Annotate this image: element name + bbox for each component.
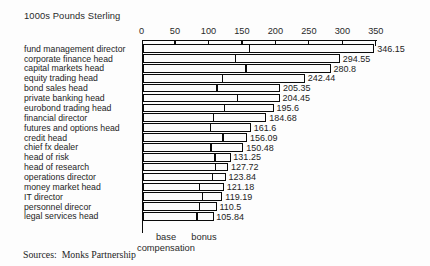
category-label: head of risk xyxy=(24,152,138,162)
legend-label-bonus: bonus xyxy=(184,232,224,243)
bar-divider xyxy=(215,164,216,171)
bar-value-label: 346.15 xyxy=(377,44,405,54)
category-label: IT director xyxy=(24,192,138,202)
category-label: futures and options head xyxy=(24,123,138,133)
bar-divider xyxy=(235,55,236,62)
category-label: chief fx dealer xyxy=(24,142,138,152)
chart-canvas: 1000s Pounds Sterling 050100150200250300… xyxy=(0,0,430,266)
bar xyxy=(143,94,280,103)
bar xyxy=(143,202,217,211)
x-tick-label: 250 xyxy=(301,26,316,36)
bar-divider xyxy=(216,85,217,92)
bar-value-label: 205.35 xyxy=(283,83,311,93)
x-tick-label: 50 xyxy=(170,26,180,36)
bar-value-label: 110.5 xyxy=(219,202,241,212)
bar-value-label: 280.8 xyxy=(333,64,356,74)
category-label: bond sales head xyxy=(24,83,138,93)
bar xyxy=(143,183,224,192)
bar-value-label: 121.18 xyxy=(227,182,255,192)
bar-divider xyxy=(199,184,200,191)
bar-value-label: 161.6 xyxy=(254,123,277,133)
bar xyxy=(143,192,223,201)
x-tick-label: 300 xyxy=(335,26,350,36)
category-label: financial director xyxy=(24,113,138,123)
x-tick-label: 100 xyxy=(201,26,216,36)
bar-divider xyxy=(196,213,197,220)
bar xyxy=(143,113,267,122)
category-label: operations director xyxy=(24,172,138,182)
bar xyxy=(143,54,340,63)
category-label: private banking head xyxy=(24,93,138,103)
bar xyxy=(143,212,214,221)
x-tick-label: 350 xyxy=(368,26,383,36)
bar-divider xyxy=(224,105,225,112)
sources-caption: Sources: Monks Partnership xyxy=(23,249,136,260)
bar xyxy=(143,104,274,113)
bar xyxy=(143,143,244,152)
bar-divider xyxy=(249,45,250,52)
bar xyxy=(143,173,226,182)
bar xyxy=(143,44,375,53)
bar xyxy=(143,64,331,73)
bar-value-label: 105.84 xyxy=(216,212,244,222)
bar-divider xyxy=(214,154,215,161)
bar-divider xyxy=(222,134,223,141)
bar-value-label: 123.84 xyxy=(228,172,256,182)
bar xyxy=(143,133,248,142)
category-label: equity trading head xyxy=(24,73,138,83)
category-label: head of research xyxy=(24,162,138,172)
bar-value-label: 131.25 xyxy=(233,152,261,162)
bar-value-label: 242.44 xyxy=(308,73,336,83)
bar xyxy=(143,153,231,162)
bar xyxy=(143,74,305,83)
bar-divider xyxy=(212,174,213,181)
bar xyxy=(143,84,280,93)
bar-value-label: 150.48 xyxy=(246,143,274,153)
x-tick-label: 150 xyxy=(234,26,249,36)
bar xyxy=(143,123,251,132)
category-label: corporate finance head xyxy=(24,54,138,64)
chart-title: 1000s Pounds Sterling xyxy=(24,10,120,21)
category-label: capital markets head xyxy=(24,63,138,73)
bar-divider xyxy=(245,65,246,72)
x-tick-label: 0 xyxy=(139,26,144,36)
category-label: eurobond trading head xyxy=(24,103,138,113)
bar xyxy=(143,163,229,172)
category-label: personnel direcor xyxy=(24,202,138,212)
category-label: legal services head xyxy=(24,211,138,221)
bar-divider xyxy=(213,114,214,121)
bar-divider xyxy=(222,75,223,82)
bar-divider xyxy=(202,193,203,200)
bar-value-label: 294.55 xyxy=(343,54,371,64)
x-tick-label: 200 xyxy=(268,26,283,36)
bar-value-label: 184.68 xyxy=(269,113,297,123)
bar-divider xyxy=(237,95,238,102)
category-label: fund management director xyxy=(24,44,138,54)
bar-value-label: 156.09 xyxy=(250,133,278,143)
bar-divider xyxy=(199,203,200,210)
x-tick-mark xyxy=(375,40,376,46)
bar-divider xyxy=(210,124,211,131)
category-label: credit head xyxy=(24,133,138,143)
category-label: money market head xyxy=(24,182,138,192)
bar-value-label: 119.19 xyxy=(225,192,252,202)
bar-divider xyxy=(210,144,211,151)
bar-value-label: 127.72 xyxy=(231,162,259,172)
bar-value-label: 195.6 xyxy=(276,103,299,113)
bar-value-label: 204.45 xyxy=(282,93,310,103)
